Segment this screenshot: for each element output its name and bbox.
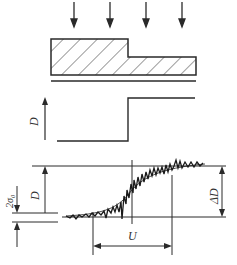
down-arrow-icon [143,2,149,27]
density-axis-arrow [42,97,48,140]
down-arrow-icon [107,2,113,27]
density-dimension-label: D [28,191,42,201]
unsharpness-dimension-arrow [93,243,172,249]
measured-density-curve [66,160,203,219]
measured-profile-guides [12,160,226,255]
down-arrow-icon [71,2,77,27]
noise-label: 2σ₀ [4,194,15,208]
unsharpness-label: U [128,229,138,243]
density-axis-label: D [27,117,41,127]
down-arrow-icon [179,2,185,27]
density-dimension-arrow [42,166,48,213]
ideal-density-profile [57,98,195,141]
smoothed-density-curve [66,164,205,216]
incident-radiation-arrows [71,2,185,27]
delta-density-label: ΔD [207,188,221,205]
diagram-canvas: D D 2σ₀ ΔD U [0,0,237,265]
stepped-test-object [51,39,196,75]
